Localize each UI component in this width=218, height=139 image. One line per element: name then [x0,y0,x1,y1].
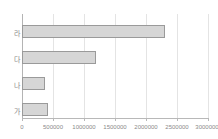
x-tick-3000000 [208,118,209,121]
bar-na[interactable] [22,77,45,90]
bar-chart: 라 다 나 가 0 500000 1000000 1500000 2000000… [0,0,218,139]
y-axis-label-na: 나 [0,82,20,90]
x-tick-label-1000000: 1000000 [72,124,95,130]
gridline-3000000 [208,14,209,118]
bar-ra[interactable] [22,25,165,38]
x-tick-2000000 [146,118,147,121]
x-tick-label-2000000: 2000000 [134,124,157,130]
x-tick-label-0: 0 [20,124,23,130]
x-tick-label-500000: 500000 [43,124,63,130]
y-axis-label-ra: 라 [0,30,20,38]
y-axis-label-ga: 가 [0,108,20,116]
y-axis-label-da: 다 [0,56,20,64]
x-tick-label-2500000: 2500000 [165,124,188,130]
x-tick-500000 [53,118,54,121]
bar-da[interactable] [22,51,96,64]
gridline-2500000 [177,14,178,118]
x-tick-2500000 [177,118,178,121]
x-tick-label-1500000: 1500000 [103,124,126,130]
y-axis-labels: 라 다 나 가 [0,14,20,118]
chart-title-faint [0,0,218,9]
x-tick-label-3000000: 3000000 [195,124,218,130]
x-tick-1500000 [115,118,116,121]
x-tick-0 [22,118,23,121]
plot-area [22,14,208,118]
bar-ga[interactable] [22,103,48,116]
x-tick-1000000 [84,118,85,121]
